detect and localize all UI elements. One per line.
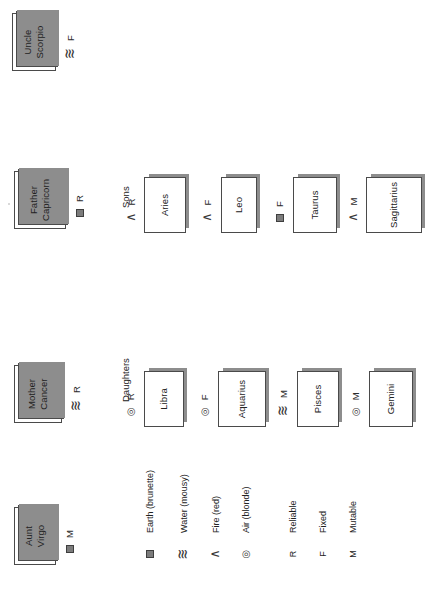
card-label: Aquarius: [236, 378, 248, 420]
quality-letter: R: [126, 198, 137, 205]
legend-label: Air (blonde): [241, 486, 251, 533]
legend-item-reliable: R Reliable: [288, 500, 298, 565]
quality-letter: M: [348, 197, 359, 205]
air-spiral-icon: ◎: [126, 407, 136, 416]
card-mother-cancer[interactable]: Mother Cancer: [14, 365, 62, 423]
quality-letter: F: [199, 394, 210, 400]
legend-label: Earth (brunette): [145, 470, 155, 533]
legend-item-fixed: F Fixed: [318, 511, 328, 565]
attr-sagittarius: ∧ M: [347, 197, 360, 222]
attr-uncle-scorpio: ≋ F: [64, 35, 77, 59]
card-label: Gemini: [385, 382, 397, 417]
water-wave-icon: ≋: [177, 543, 190, 565]
card-aunt-virgo[interactable]: Aunt Virgo: [14, 507, 56, 565]
quality-letter: R: [125, 393, 136, 400]
attr-taurus: F: [274, 201, 285, 222]
fire-caret-icon: ∧: [124, 212, 137, 222]
water-wave-icon: ≋: [274, 405, 290, 416]
legend-item-mutable: M Mutable: [348, 501, 358, 565]
air-spiral-icon: ◎: [351, 407, 361, 416]
legend-label: Fire (red): [211, 496, 221, 533]
card-taurus[interactable]: Taurus: [293, 177, 337, 233]
card-leo[interactable]: Leo: [221, 177, 257, 233]
fire-caret-icon: ∧: [209, 543, 222, 565]
attr-libra: ◎ R: [125, 393, 136, 416]
scan-speck: [8, 203, 10, 205]
card-aries[interactable]: Aries: [144, 177, 186, 233]
legend-item-fire: ∧ Fire (red): [209, 496, 222, 565]
card-label: Aries: [159, 192, 171, 218]
attr-pisces: ≋ M: [277, 390, 290, 416]
quality-letter: M: [64, 530, 75, 538]
card-label: Aunt Virgo: [23, 523, 46, 550]
attr-aunt-virgo: M: [64, 530, 75, 553]
quality-letter: R: [71, 386, 82, 393]
card-aquarius[interactable]: Aquarius: [218, 371, 266, 427]
attr-aquarius: ◎ F: [199, 394, 210, 416]
card-label: Pisces: [312, 383, 324, 416]
quality-letter-m: M: [348, 543, 358, 565]
quality-letter-r: R: [288, 543, 298, 565]
card-label: Father Capricorn: [28, 177, 51, 223]
quality-letter: M: [278, 390, 289, 398]
attr-leo: ∧ F: [201, 199, 214, 222]
legend-label: Mutable: [348, 501, 358, 533]
attr-father-capricorn: R: [74, 195, 85, 217]
card-pisces[interactable]: Pisces: [297, 371, 339, 427]
earth-square-icon: [276, 214, 284, 222]
earth-square-icon: [146, 543, 154, 565]
earth-square-icon: [66, 545, 74, 553]
legend-item-water: ≋ Water (mousy): [177, 474, 190, 565]
fire-caret-icon: ∧: [200, 212, 213, 222]
water-wave-icon: ≋: [61, 48, 77, 59]
card-label: Uncle Scorpio: [22, 24, 45, 61]
legend-item-air: ◎ Air (blonde): [241, 486, 251, 565]
legend-label: Water (mousy): [179, 474, 189, 533]
card-label: Sagittarius: [388, 180, 400, 230]
card-label: Mother Cancer: [26, 376, 49, 411]
attr-aries: ∧ R: [125, 198, 138, 222]
attr-mother-cancer: ≋ R: [70, 386, 83, 411]
card-uncle-scorpio[interactable]: Uncle Scorpio: [12, 13, 56, 71]
earth-square-icon: [76, 209, 84, 217]
water-wave-icon: ≋: [67, 400, 83, 411]
legend-item-earth: Earth (brunette): [145, 470, 155, 565]
air-spiral-icon: ◎: [200, 407, 210, 416]
attr-gemini: ◎ M: [350, 392, 361, 416]
card-sagittarius[interactable]: Sagittarius: [366, 177, 422, 233]
quality-letter-f: F: [318, 543, 328, 565]
quality-letter: F: [202, 199, 213, 205]
card-libra[interactable]: Libra: [144, 371, 184, 427]
card-label: Taurus: [309, 188, 321, 221]
card-father-capricorn[interactable]: Father Capricorn: [14, 171, 66, 229]
quality-letter: M: [350, 392, 361, 400]
quality-letter: F: [274, 201, 285, 207]
legend-label: Reliable: [288, 500, 298, 533]
fire-caret-icon: ∧: [346, 212, 359, 222]
air-spiral-icon: ◎: [241, 543, 251, 565]
quality-letter: F: [65, 35, 76, 41]
card-gemini[interactable]: Gemini: [369, 371, 413, 427]
card-label: Libra: [158, 386, 170, 412]
card-label: Leo: [233, 195, 245, 215]
quality-letter: R: [74, 195, 85, 202]
legend-label: Fixed: [318, 511, 328, 533]
